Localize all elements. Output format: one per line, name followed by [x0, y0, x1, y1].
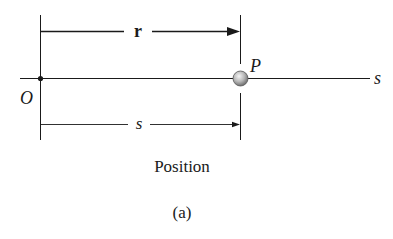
arrowhead-icon: [227, 27, 240, 36]
figure-caption: Position: [154, 157, 210, 176]
arrowhead-icon: [232, 122, 240, 127]
position-diagram: r P s O s Position (a): [0, 0, 393, 239]
subfigure-label: (a): [173, 203, 192, 222]
distance-label: s: [136, 114, 143, 133]
origin-point: [38, 76, 43, 81]
axis-label: s: [374, 68, 381, 88]
particle-p: [233, 71, 248, 86]
position-vector-label: r: [134, 21, 142, 41]
point-label: P: [249, 56, 261, 76]
origin-label: O: [20, 88, 33, 108]
